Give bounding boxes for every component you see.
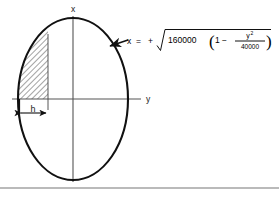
equation-fraction: y 2 40000 xyxy=(235,30,265,50)
equation-plus-sign: + xyxy=(148,36,153,46)
equation-minus: − xyxy=(222,35,227,45)
dimension-label-h: h xyxy=(30,104,35,114)
equation-expression: x = + 160000 ( 1 − y 2 40000 ) xyxy=(127,30,272,52)
equation-one: 1 xyxy=(215,35,220,45)
equation-variable: x xyxy=(127,36,132,46)
equation-paren-close: ) xyxy=(266,32,272,51)
equation-coefficient: 160000 xyxy=(168,35,197,45)
equation-equals-sign: = xyxy=(136,36,141,46)
figure-container: x y h x = + 160000 ( 1 − y 2 40000 ) xyxy=(0,0,279,197)
ellipse-diagram: x y h x = + 160000 ( 1 − y 2 40000 ) xyxy=(0,0,279,197)
axis-label-x: x xyxy=(71,4,76,14)
axis-label-y: y xyxy=(146,94,151,104)
fraction-denominator: 40000 xyxy=(241,43,259,50)
fraction-numerator-exponent: 2 xyxy=(251,30,254,36)
